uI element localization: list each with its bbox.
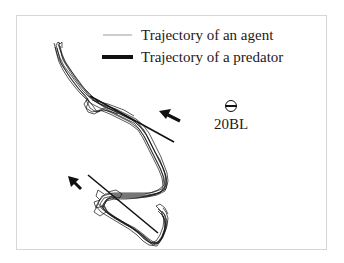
scale-label: 20BL: [214, 116, 248, 132]
upper-predator-path: [90, 96, 174, 142]
legend-agent-label: Trajectory of an agent: [141, 27, 273, 43]
lower-arrow-icon: [68, 176, 81, 189]
legend-predator-label: Trajectory of a predator: [141, 49, 283, 65]
agent-trajectory-bundle: [54, 42, 168, 246]
scale-circle-icon: [226, 101, 237, 112]
upper-arrow-icon: [159, 109, 180, 121]
